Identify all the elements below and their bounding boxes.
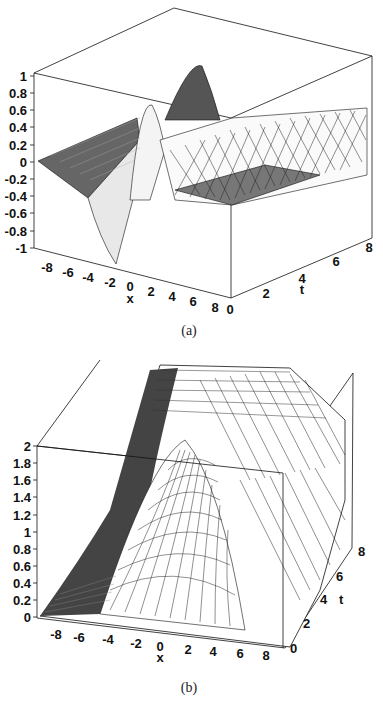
t-tick: 2: [262, 286, 269, 301]
figure-panel-b: 2 1.8 1.6 1.4 1.2 1 0.8 0.6 0.4 0.2 0 -8…: [0, 360, 383, 705]
t-tick: 6: [332, 254, 339, 269]
z-tick: -0.2: [5, 172, 27, 187]
panel-caption-b: (b): [159, 680, 219, 696]
x-axis-labels-a: -8 -6 -4 -2 0 x 2 4 6 8: [41, 260, 218, 315]
z-tick: -0.8: [5, 224, 27, 239]
z-tick: 0.2: [13, 593, 31, 608]
x-tick: -6: [73, 630, 85, 645]
z-tick: 1.8: [13, 456, 31, 471]
x-tick: -4: [82, 270, 94, 285]
t-tick: 0: [226, 302, 233, 317]
z-tick: 0.4: [9, 120, 28, 135]
surface-mesh-a: [38, 65, 367, 264]
surface-mesh-b: [40, 365, 345, 647]
z-tick: 0.6: [9, 103, 27, 118]
z-tick: 2: [24, 439, 31, 454]
x-tick: 2: [184, 642, 191, 657]
t-tick: 4: [320, 592, 328, 607]
z-tick: -1: [15, 241, 27, 256]
x-tick: -6: [62, 265, 74, 280]
x-tick: -8: [50, 627, 62, 642]
z-tick: 0: [24, 610, 31, 625]
surface-plot-b: 2 1.8 1.6 1.4 1.2 1 0.8 0.6 0.4 0.2 0 -8…: [0, 360, 383, 705]
t-axis-title: t: [339, 592, 344, 607]
x-axis-title: x: [126, 291, 134, 306]
t-axis-labels-a: 0 2 4 t 6 8: [226, 240, 372, 317]
z-axis-ticks-b: [33, 446, 37, 617]
z-tick: 1: [20, 69, 27, 84]
z-tick: 1.6: [13, 473, 31, 488]
x-tick: 4: [209, 644, 217, 659]
z-axis-labels-a: 1 0.8 0.6 0.4 0.2 0 -0.2 -0.4 -0.6 -0.8 …: [5, 69, 28, 256]
z-tick: 1: [24, 525, 31, 540]
z-tick: 1.4: [13, 490, 32, 505]
x-tick: 6: [189, 294, 196, 309]
t-tick: 8: [365, 240, 372, 255]
z-tick: 0.6: [13, 559, 31, 574]
z-axis-ticks-a: [30, 76, 34, 248]
z-tick: 0.2: [9, 138, 27, 153]
x-axis-title: x: [156, 650, 164, 665]
x-tick: -4: [102, 632, 114, 647]
z-tick: 0.8: [9, 86, 27, 101]
z-tick: 0.8: [13, 542, 31, 557]
x-tick: 6: [236, 646, 243, 661]
x-tick: 4: [168, 289, 176, 304]
t-tick: 6: [336, 569, 343, 584]
x-tick: 8: [262, 648, 269, 663]
z-tick: -0.6: [5, 206, 27, 221]
z-tick: 1.2: [13, 508, 31, 523]
x-tick: 8: [211, 300, 218, 315]
panel-caption-a: (a): [159, 323, 219, 339]
x-tick: 2: [147, 284, 154, 299]
t-tick: 0: [290, 641, 297, 656]
z-axis-labels-b: 2 1.8 1.6 1.4 1.2 1 0.8 0.6 0.4 0.2 0: [13, 439, 32, 625]
t-tick: 2: [303, 616, 310, 631]
z-tick: 0: [20, 155, 27, 170]
t-axis-title: t: [300, 282, 305, 297]
surface-plot-a: 1 0.8 0.6 0.4 0.2 0 -0.2 -0.4 -0.6 -0.8 …: [0, 0, 383, 345]
x-tick: -8: [41, 260, 53, 275]
x-tick: -2: [130, 636, 142, 651]
z-tick: -0.4: [5, 189, 28, 204]
t-tick: 8: [358, 544, 365, 559]
x-tick: -2: [104, 275, 116, 290]
z-tick: 0.4: [13, 576, 32, 591]
figure-panel-a: 1 0.8 0.6 0.4 0.2 0 -0.2 -0.4 -0.6 -0.8 …: [0, 0, 383, 345]
